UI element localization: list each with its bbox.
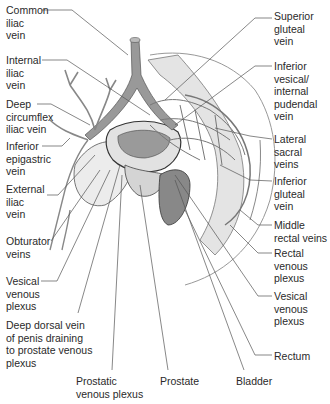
label-internal-iliac-vein: Internal iliac vein: [6, 54, 41, 92]
label-prostatic-venous-plexus: Prostatic venous plexus: [76, 375, 143, 400]
label-vesical-venous-plexus-right: Vesical venous plexus: [274, 290, 308, 328]
label-bladder: Bladder: [236, 375, 272, 388]
label-inferior-vesical-pudendal-vein: Inferior vesical/ internal pudendal vein: [274, 60, 317, 123]
label-rectum: Rectum: [274, 350, 310, 363]
label-middle-rectal-veins: Middle rectal veins: [274, 219, 327, 244]
label-prostate: Prostate: [160, 375, 199, 388]
label-deep-dorsal-vein: Deep dorsal vein of penis draining to pr…: [6, 319, 92, 369]
label-inferior-epigastric-vein: Inferior epigastric vein: [6, 140, 51, 178]
label-common-iliac-vein: Common iliac vein: [6, 4, 49, 42]
label-inferior-gluteal-vein: Inferior gluteal vein: [274, 175, 307, 213]
label-vesical-venous-plexus-left: Vesical venous plexus: [6, 275, 40, 313]
label-obturator-veins: Obturator veins: [6, 235, 50, 260]
label-rectal-venous-plexus: Rectal venous plexus: [274, 247, 308, 285]
label-lateral-sacral-veins: Lateral sacral veins: [274, 133, 306, 171]
label-external-iliac-vein: External iliac vein: [6, 183, 45, 221]
label-deep-circumflex-iliac-vein: Deep circumflex iliac vein: [6, 98, 53, 136]
label-superior-gluteal-vein: Superior gluteal vein: [274, 10, 314, 48]
